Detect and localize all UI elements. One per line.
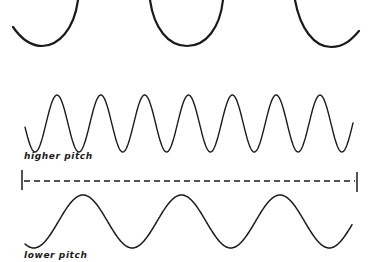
top-partial-wave bbox=[13, 0, 359, 47]
higher-pitch-wave bbox=[25, 95, 353, 152]
lower-pitch-wave bbox=[25, 195, 352, 248]
pitch-diagram bbox=[0, 0, 376, 262]
time-span-marker bbox=[22, 170, 357, 192]
higher-pitch-label: higher pitch bbox=[24, 152, 93, 161]
lower-pitch-label: lower pitch bbox=[24, 251, 87, 260]
